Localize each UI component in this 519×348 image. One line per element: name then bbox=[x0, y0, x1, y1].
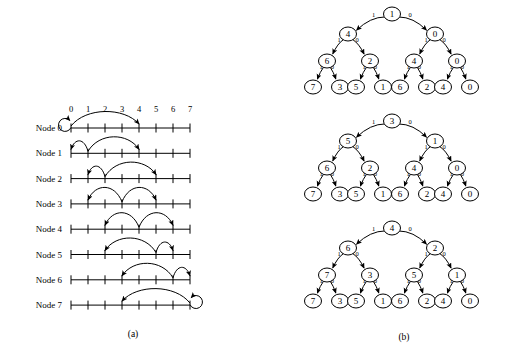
tree-bottom-l3-1-label: 3 bbox=[368, 270, 373, 280]
axis-tick-label-7: 7 bbox=[188, 104, 192, 114]
tree-bottom-l2-0-label: 6 bbox=[346, 243, 351, 253]
axis-tick-label-6: 6 bbox=[171, 104, 175, 114]
tree-bottom-l3-3-label: 1 bbox=[455, 270, 460, 280]
tree-top-l3-3-label: 0 bbox=[455, 56, 460, 66]
tree-bottom-root-label: 4 bbox=[390, 223, 395, 233]
tree-bottom-leaf-6-label: 4 bbox=[441, 296, 446, 306]
tree-middle-leaf-4-label: 6 bbox=[398, 189, 403, 199]
arc-2-to-5 bbox=[105, 162, 156, 177]
tree-middle-l2-0-label: 5 bbox=[346, 136, 351, 146]
tree-middle-l3-1-label: 2 bbox=[368, 163, 373, 173]
tree-top-l3-2-label: 4 bbox=[412, 56, 417, 66]
axis-tick-label-0: 0 bbox=[69, 104, 73, 114]
tree-bottom-edge-root-l-weight: 1 bbox=[372, 225, 375, 232]
tree-top-edge-root-r-weight: 0 bbox=[408, 11, 411, 18]
arc-1-to-4 bbox=[88, 137, 139, 152]
caption-a: (a) bbox=[128, 329, 139, 340]
tree-bottom-leaf-5-label: 2 bbox=[425, 296, 430, 306]
tree-middle-root-label: 3 bbox=[390, 116, 395, 126]
row-label-node-6: Node 6 bbox=[36, 275, 63, 285]
tree-top-leaf-7-label: 0 bbox=[468, 82, 473, 92]
tree-top-leaf-6-label: 4 bbox=[441, 82, 446, 92]
arc-6-to-3 bbox=[122, 263, 173, 278]
tree-bottom-l3-0-label: 7 bbox=[325, 270, 330, 280]
arc-edges bbox=[59, 111, 203, 308]
row-label-node-4: Node 4 bbox=[36, 224, 63, 234]
tree-middle-edge-root-r bbox=[399, 124, 427, 137]
tree-top-edge-root-l bbox=[357, 17, 386, 30]
tree-middle-l3-3-label: 0 bbox=[455, 163, 460, 173]
tree-middle-leaf-7-label: 0 bbox=[468, 189, 473, 199]
tree-top-leaf-5-label: 2 bbox=[425, 82, 430, 92]
tree-middle-leaf-1-label: 3 bbox=[338, 189, 343, 199]
tree-top-edge-root-r bbox=[399, 17, 427, 30]
tree-bottom-leaf-0-label: 7 bbox=[311, 296, 316, 306]
tree-middle-edge-root-l-weight: 1 bbox=[372, 118, 375, 125]
tree-middle-leaf-2-label: 5 bbox=[354, 189, 359, 199]
row-label-node-3: Node 3 bbox=[36, 199, 63, 209]
tree-middle: 10101010101010351624073516240 bbox=[305, 114, 479, 201]
tree-top-leaf-0-label: 7 bbox=[311, 82, 316, 92]
tree-bottom-leaf-7-label: 0 bbox=[468, 296, 473, 306]
axis-tick-label-3: 3 bbox=[120, 104, 124, 114]
tree-bottom-leaf-4-label: 6 bbox=[398, 296, 403, 306]
tree-middle-l3-0-label: 6 bbox=[325, 163, 330, 173]
tree-middle-leaf-3-label: 1 bbox=[381, 189, 386, 199]
row-label-node-1: Node 1 bbox=[36, 148, 62, 158]
tree-top-edge-root-l-weight: 1 bbox=[372, 11, 375, 18]
tree-top-leaf-2-label: 5 bbox=[354, 82, 359, 92]
tree-top-l3-1-label: 2 bbox=[368, 56, 373, 66]
tree-bottom-leaf-3-label: 1 bbox=[381, 296, 386, 306]
figure-container: 01234567 Node 0Node 1Node 2Node 3Node 4N… bbox=[0, 0, 519, 348]
tree-bottom-edge-root-l bbox=[357, 231, 386, 244]
panel-b-binary-trees: 1010101010101014062407351624010101010101… bbox=[305, 7, 479, 343]
tree-middle-leaf-6-label: 4 bbox=[441, 189, 446, 199]
tree-middle-l3-2-label: 4 bbox=[412, 163, 417, 173]
tree-bottom-edge-root-r bbox=[399, 231, 427, 244]
tree-top-leaf-3-label: 1 bbox=[381, 82, 386, 92]
tree-top-l2-0-label: 4 bbox=[346, 29, 351, 39]
row-label-node-5: Node 5 bbox=[36, 250, 63, 260]
axis-lines bbox=[71, 124, 190, 310]
tree-group: 1010101010101014062407351624010101010101… bbox=[305, 7, 479, 308]
row-label-node-2: Node 2 bbox=[36, 174, 62, 184]
axis-tick-label-4: 4 bbox=[137, 104, 142, 114]
row-label-node-7: Node 7 bbox=[36, 300, 63, 310]
tree-top-leaf-4-label: 6 bbox=[398, 82, 403, 92]
arc-2-to-1 bbox=[88, 166, 105, 176]
figure-svg: 01234567 Node 0Node 1Node 2Node 3Node 4N… bbox=[0, 0, 519, 348]
tree-bottom-edge-root-r-weight: 0 bbox=[408, 225, 411, 232]
tree-middle-leaf-0-label: 7 bbox=[311, 189, 316, 199]
arc-5-to-6 bbox=[156, 242, 173, 252]
tree-bottom-l2-1-label: 2 bbox=[433, 243, 438, 253]
tree-middle-edge-root-r-weight: 0 bbox=[408, 118, 411, 125]
axis-tick-label-2: 2 bbox=[103, 104, 107, 114]
caption-b: (b) bbox=[398, 332, 409, 343]
tree-middle-l2-1-label: 1 bbox=[433, 136, 438, 146]
row-labels: Node 0Node 1Node 2Node 3Node 4Node 5Node… bbox=[36, 123, 63, 310]
axis-tick-labels: 01234567 bbox=[69, 104, 192, 114]
tree-top: 10101010101010140624073516240 bbox=[305, 7, 479, 94]
tree-top-leaf-1-label: 3 bbox=[338, 82, 343, 92]
tree-middle-leaf-5-label: 2 bbox=[425, 189, 430, 199]
axis-tick-label-5: 5 bbox=[154, 104, 158, 114]
tree-bottom: 10101010101010462735173516240 bbox=[305, 221, 479, 308]
tree-top-l2-1-label: 0 bbox=[433, 29, 438, 39]
tree-bottom-leaf-2-label: 5 bbox=[354, 296, 359, 306]
tree-top-l3-0-label: 6 bbox=[325, 56, 330, 66]
axis-tick-label-1: 1 bbox=[86, 104, 90, 114]
tree-top-root-label: 1 bbox=[390, 9, 395, 19]
panel-a-arc-diagram: 01234567 Node 0Node 1Node 2Node 3Node 4N… bbox=[36, 104, 203, 340]
arc-6-to-7 bbox=[173, 267, 190, 277]
self-loop-node-7 bbox=[190, 296, 202, 309]
arc-5-to-2 bbox=[105, 238, 156, 253]
tree-bottom-l3-2-label: 5 bbox=[412, 270, 417, 280]
tree-middle-edge-root-l bbox=[357, 124, 386, 137]
arc-1-to-0 bbox=[71, 141, 88, 151]
tree-bottom-leaf-1-label: 3 bbox=[338, 296, 343, 306]
